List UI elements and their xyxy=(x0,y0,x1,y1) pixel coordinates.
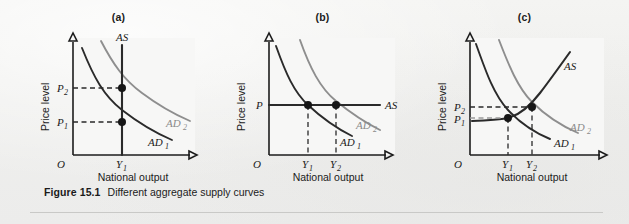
figure-number: Figure 15.1 xyxy=(44,186,101,198)
panel-c-equilibrium-point-1 xyxy=(504,114,512,122)
panel-a-p1-label: P xyxy=(56,116,64,128)
panel-a-ad2-label: AD xyxy=(165,117,181,129)
panel-c-origin-label: O xyxy=(454,158,462,170)
panel-c-p2-label: P xyxy=(453,101,461,113)
panel-c-ad1-label: AD xyxy=(553,137,569,149)
panel-a-plot-area xyxy=(73,38,195,155)
panel-a-equilibrium-point-2 xyxy=(118,84,126,92)
panel-b-equilibrium-point-2 xyxy=(332,101,340,109)
panel-a-ad1-label: AD xyxy=(147,136,163,148)
panel-c-p2-sub: 2 xyxy=(461,107,465,116)
panel-c-ad1-sub: 1 xyxy=(571,143,575,152)
panel-b-chart: AS P Y 1 Y 2 AD 2 AD 1 O National output… xyxy=(200,0,409,186)
panel-b-origin-label: O xyxy=(253,158,261,170)
panel-c-ad2-label: AD xyxy=(569,121,585,133)
figure-caption-text: Different aggregate supply curves xyxy=(108,186,265,198)
panel-a-x-axis-title: National output xyxy=(98,171,169,183)
panel-b-as-label: AS xyxy=(384,99,398,111)
panel-c: (c) AS xyxy=(404,0,613,186)
panel-c-p1-sub: 1 xyxy=(461,119,465,128)
panel-a-y-axis-title: Price level xyxy=(39,83,51,131)
panel-b: (b) AS P Y xyxy=(200,0,409,186)
panel-c-ad2-sub: 2 xyxy=(587,127,591,136)
figure-container: (a) AS xyxy=(0,0,629,224)
panel-b-equilibrium-point-1 xyxy=(304,101,312,109)
panel-a-origin-label: O xyxy=(57,158,65,170)
panel-group: (a) AS xyxy=(0,0,629,186)
panel-a-ad2-sub: 2 xyxy=(183,123,187,132)
panel-b-ad2-label: AD xyxy=(355,119,371,131)
panel-b-ad2-sub: 2 xyxy=(373,125,377,134)
panel-a-p2-sub: 2 xyxy=(64,88,68,97)
caption-divider-rule xyxy=(30,212,603,213)
panel-c-as-label: AS xyxy=(563,60,577,72)
panel-a-p1-sub: 1 xyxy=(64,122,68,131)
panel-c-equilibrium-point-2 xyxy=(528,103,536,111)
panel-c-x-axis-title: National output xyxy=(497,171,568,183)
panel-a-ad1-sub: 1 xyxy=(165,142,169,151)
panel-c-chart: AS P 2 P 1 Y 1 Y 2 AD 2 AD 1 O National … xyxy=(404,0,629,186)
panel-c-p1-label: P xyxy=(453,113,461,125)
panel-a-p2-label: P xyxy=(56,82,64,94)
panel-b-x-axis-title: National output xyxy=(293,171,364,183)
panel-b-y-axis-title: Price level xyxy=(235,83,247,131)
panel-b-ad1-sub: 1 xyxy=(357,142,361,151)
figure-caption: Figure 15.1Different aggregate supply cu… xyxy=(44,186,264,198)
panel-b-p-label: P xyxy=(255,99,263,111)
panel-b-ad1-label: AD xyxy=(339,136,355,148)
panel-a: (a) AS xyxy=(0,0,209,186)
panel-a-chart: AS P 2 P 1 Y 1 AD 2 AD 1 O National outp… xyxy=(0,0,209,186)
panel-a-as-label: AS xyxy=(115,31,129,43)
panel-a-equilibrium-point-1 xyxy=(118,118,126,126)
panel-c-y-axis-title: Price level xyxy=(436,83,448,131)
